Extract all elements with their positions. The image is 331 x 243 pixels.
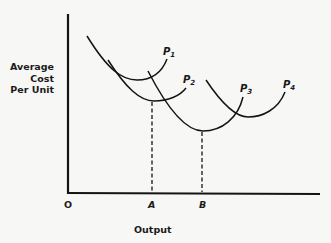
origin-label: O [64, 199, 72, 210]
y-axis-label-line-3: Per Unit [10, 84, 54, 96]
diagram-canvas: P1 P2 P3 P4 O A B Output [0, 0, 331, 243]
x-axis [67, 193, 320, 194]
tick-label-a: A [147, 199, 155, 210]
curve-label-p4: P4 [283, 79, 295, 92]
curve-label-p3: P3 [240, 83, 252, 96]
y-axis-label: Average Cost Per Unit [10, 61, 54, 96]
curve-p2 [108, 60, 186, 101]
x-axis-label: Output [134, 224, 172, 235]
curve-label-p1: P1 [163, 46, 175, 59]
y-axis-label-line-1: Average [10, 61, 54, 73]
cost-curves-diagram: Average Cost Per Unit P1 P2 P3 P4 O A B … [0, 0, 331, 243]
curve-p1 [87, 36, 167, 80]
tick-label-b: B [199, 199, 206, 210]
curve-label-p2: P2 [183, 74, 195, 87]
y-axis-label-line-2: Cost [10, 73, 54, 85]
